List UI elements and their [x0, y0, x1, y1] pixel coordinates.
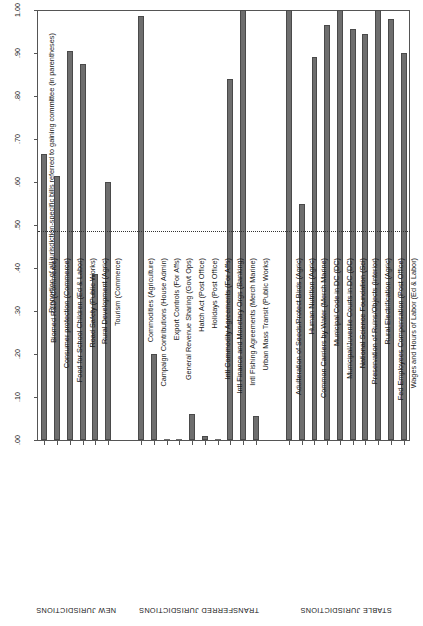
category-label: National Science Foundation (Sci) — [357, 258, 368, 448]
category-label: Rural Electrification (Agric) — [382, 258, 393, 448]
category-label: Intl Fishing Agreements (Merch Marine) — [247, 258, 258, 448]
category-label: Road Safety (Public Works) — [87, 258, 98, 448]
category-label: General Revenue Sharing (Govt Ops) — [183, 258, 194, 448]
category-label: Urban Mass Transit (Public Works) — [260, 258, 271, 448]
y-tick-label: .10 — [6, 385, 30, 409]
category-label: Common Carriers by Water (Merch Marine) — [318, 258, 329, 448]
category-label: Fed Employees Compensation (Post Office) — [395, 258, 406, 448]
y-tick-label: .70 — [6, 127, 30, 151]
y-tick-label: .40 — [6, 256, 30, 280]
bar — [286, 10, 292, 440]
y-tick-label: .90 — [6, 41, 30, 65]
y-tick-label: 1.00 — [6, 0, 30, 22]
x-tick-mark — [141, 441, 142, 445]
category-label: Holidays (Post Office) — [209, 258, 220, 448]
category-label: Campaign Contributions (House Admin) — [158, 258, 169, 448]
y-tick-label: .00 — [6, 428, 30, 452]
y-tick-label: .20 — [6, 342, 30, 366]
category-label: Rural Development (Agric) — [99, 258, 110, 448]
category-label: Biomed R&D (Commerce) — [48, 258, 59, 448]
group-label: TRANSFERRED JURISDICTIONS — [119, 604, 279, 616]
category-label: Commodities (Agriculture) — [145, 258, 156, 448]
y-tick-label: .30 — [6, 299, 30, 323]
y-tick-label: .80 — [6, 84, 30, 108]
x-tick-mark — [44, 441, 45, 445]
y-tick-mark — [34, 440, 38, 441]
category-label: Consumer protection (Commerce) — [61, 258, 72, 448]
x-tick-mark — [289, 441, 290, 445]
category-label: Export Controls (For Affs) — [171, 258, 182, 448]
y-tick-label: .60 — [6, 170, 30, 194]
bar — [138, 16, 144, 440]
category-label: Human Nutrition (Agric) — [306, 258, 317, 448]
category-label: Preservation of Ruins/Objects (Interior) — [369, 258, 380, 448]
category-label: Intl Finance and Monetary Orgs (Banking) — [234, 258, 245, 448]
category-label: Hatch Act (Post Office) — [196, 258, 207, 448]
category-label: Wages and Hours of Labor (Ed & Labor) — [408, 258, 419, 448]
category-label: Municipal/Juvenile Courts in DC (DC) — [344, 258, 355, 448]
reference-line — [38, 231, 410, 232]
category-label: Municipal Code in DC (DC) — [331, 258, 342, 448]
y-tick-label: .50 — [6, 213, 30, 237]
group-label: STABLE JURISDICTIONS — [266, 604, 423, 616]
bar — [41, 154, 47, 440]
category-label: Food for School Children (Ed & Labor) — [74, 258, 85, 448]
category-label: Adulteration of Seeds/Protect Birds (Agr… — [293, 258, 304, 448]
category-label: Intl Commodity Agreements (For Affs) — [222, 258, 233, 448]
category-label: Tourism (Commerce) — [112, 258, 123, 448]
